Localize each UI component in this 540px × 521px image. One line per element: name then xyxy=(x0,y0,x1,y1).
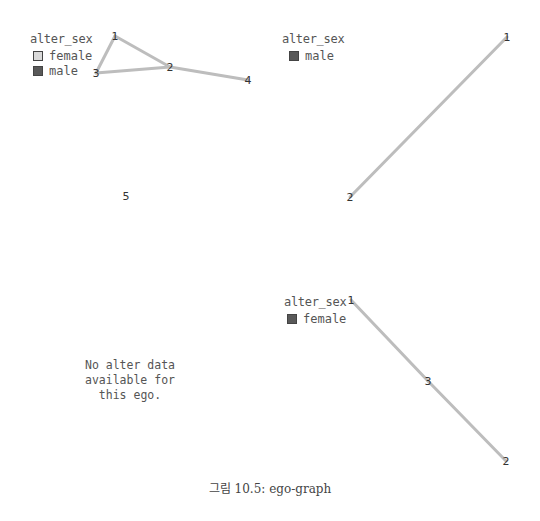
legend-item-male: male xyxy=(30,64,92,78)
node-label: 4 xyxy=(245,74,252,87)
legend-title: alter_sex xyxy=(284,295,346,309)
node-label: 3 xyxy=(425,375,432,388)
legend-label: female xyxy=(303,312,346,326)
legend-item-male: male xyxy=(282,49,344,63)
legend-item-female: female xyxy=(284,312,346,326)
message-line: available for xyxy=(70,373,190,388)
node-label: 2 xyxy=(503,455,510,468)
legend-label: male xyxy=(305,49,334,63)
node-label: 1 xyxy=(112,30,119,43)
node-label: 3 xyxy=(93,67,100,80)
legend-label: male xyxy=(49,64,78,78)
female-swatch-icon xyxy=(33,51,43,61)
node-label: 5 xyxy=(123,190,130,203)
edge-3-2 xyxy=(96,67,170,73)
legend-title: alter_sex xyxy=(282,32,344,46)
no-data-message: No alter data available for this ego. xyxy=(70,358,190,403)
message-line: this ego. xyxy=(70,388,190,403)
edge-1-2 xyxy=(115,36,170,67)
edge-1-2 xyxy=(350,37,507,197)
legend: alter_sex female xyxy=(284,295,346,326)
node-label: 1 xyxy=(348,294,355,307)
edge-3-2 xyxy=(428,381,506,461)
message-line: No alter data xyxy=(70,358,190,373)
legend: alter_sex female male xyxy=(30,32,92,78)
edge-1-3 xyxy=(351,300,428,381)
legend: alter_sex male xyxy=(282,32,344,63)
figure-caption: 그림 10.5: ego-graph xyxy=(0,479,540,496)
male-swatch-icon xyxy=(33,66,43,76)
node-label: 1 xyxy=(504,31,511,44)
edges-layer xyxy=(0,0,540,521)
legend-item-female: female xyxy=(30,49,92,63)
male-swatch-icon xyxy=(289,51,299,61)
node-label: 2 xyxy=(167,61,174,74)
legend-title: alter_sex xyxy=(30,32,92,46)
edge-2-4 xyxy=(170,67,248,80)
node-label: 2 xyxy=(347,191,354,204)
female-swatch-icon xyxy=(287,314,297,324)
legend-label: female xyxy=(49,49,92,63)
